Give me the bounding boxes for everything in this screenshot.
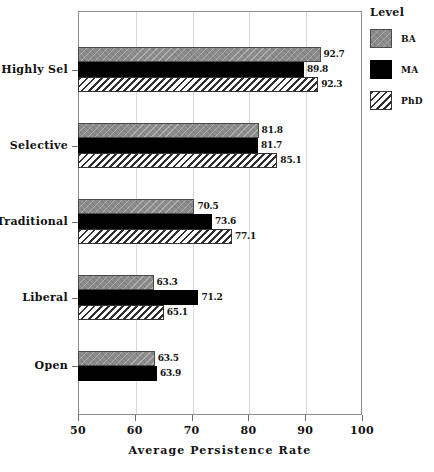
bar-value-open-ba: 63.5	[158, 351, 179, 366]
bar-selective-phd	[78, 153, 277, 168]
chart-root: 92.789.892.3Highly Sel81.881.785.1Select…	[0, 0, 434, 472]
x-tick-50	[78, 415, 79, 421]
bar-value-traditional-phd: 77.1	[235, 229, 256, 244]
legend-item-ba[interactable]: BA	[370, 29, 434, 48]
bar-liberal-ma	[78, 290, 198, 305]
bar-value-selective-ma: 81.7	[261, 138, 282, 153]
x-tick-90	[305, 415, 306, 421]
y-tick-selective	[72, 146, 78, 147]
y-tick-liberal	[72, 298, 78, 299]
x-tick-label-70: 70	[184, 424, 200, 437]
legend-item-phd[interactable]: PhD	[370, 91, 434, 110]
legend-swatch-ma-icon	[370, 60, 392, 79]
bar-value-highly-sel-ma: 89.8	[307, 62, 328, 77]
x-tick-60	[135, 415, 136, 421]
bar-open-ba	[78, 351, 155, 366]
bar-liberal-ba	[78, 275, 154, 290]
y-axis-label-selective: Selective	[10, 140, 68, 151]
bar-highly-sel-ba	[78, 47, 321, 62]
bar-selective-ba	[78, 123, 259, 138]
bar-value-highly-sel-ba: 92.7	[324, 47, 345, 62]
bar-traditional-ma	[78, 214, 212, 229]
y-axis-label-liberal: Liberal	[22, 292, 68, 303]
x-tick-label-80: 80	[240, 424, 256, 437]
x-tick-label-100: 100	[350, 424, 374, 437]
y-tick-open	[72, 366, 78, 367]
bar-highly-sel-ma	[78, 62, 304, 77]
x-tick-80	[248, 415, 249, 421]
bar-value-liberal-phd: 65.1	[167, 305, 188, 320]
legend-label-ma: MA	[401, 65, 418, 75]
bar-highly-sel-phd	[78, 77, 318, 92]
bar-traditional-ba	[78, 199, 194, 214]
x-tick-100	[362, 415, 363, 421]
bar-value-open-ma: 63.9	[160, 366, 181, 381]
bar-value-selective-phd: 85.1	[280, 153, 301, 168]
bars-layer: 92.789.892.3Highly Sel81.881.785.1Select…	[0, 0, 434, 472]
bar-traditional-phd	[78, 229, 232, 244]
bar-value-highly-sel-phd: 92.3	[321, 77, 342, 92]
legend-label-ba: BA	[401, 34, 416, 44]
bar-value-traditional-ba: 70.5	[197, 199, 218, 214]
bar-value-liberal-ma: 71.2	[201, 290, 222, 305]
bar-value-selective-ba: 81.8	[262, 123, 283, 138]
legend-swatch-ba-icon	[370, 29, 392, 48]
y-tick-highly-sel	[72, 70, 78, 71]
bar-value-liberal-ba: 63.3	[157, 275, 178, 290]
bar-open-ma	[78, 366, 157, 381]
x-tick-label-90: 90	[297, 424, 313, 437]
legend-swatch-phd-icon	[370, 91, 392, 110]
y-tick-traditional	[72, 222, 78, 223]
x-tick-label-50: 50	[70, 424, 86, 437]
y-axis-label-open: Open	[35, 360, 68, 371]
y-axis-label-highly-sel: Highly Sel	[1, 64, 68, 75]
x-tick-label-60: 60	[127, 424, 143, 437]
legend-item-ma[interactable]: MA	[370, 60, 434, 79]
bar-liberal-phd	[78, 305, 164, 320]
y-axis-label-traditional: Traditional	[0, 216, 68, 227]
legend-label-phd: PhD	[401, 96, 423, 106]
legend: Level BA MA PhD	[370, 6, 434, 122]
bar-value-traditional-ma: 73.6	[215, 214, 236, 229]
x-axis-title: Average Persistence Rate	[78, 444, 362, 457]
bar-selective-ma	[78, 138, 258, 153]
x-tick-70	[192, 415, 193, 421]
legend-title: Level	[370, 6, 434, 19]
